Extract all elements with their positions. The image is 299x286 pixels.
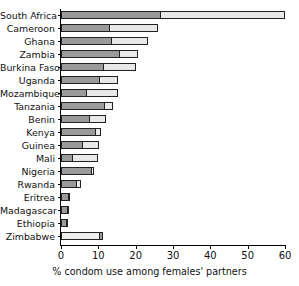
bar-row — [61, 204, 285, 217]
y-axis-label: Kenya — [0, 126, 57, 139]
x-tick-mark — [136, 245, 137, 249]
bar — [61, 11, 285, 19]
bar-segment-light — [89, 116, 105, 122]
bar-row — [61, 191, 285, 204]
x-tick-mark — [98, 245, 99, 249]
bar-row — [61, 126, 285, 139]
bar — [61, 50, 138, 58]
y-axis-label: Nigeria — [0, 165, 57, 178]
bar-row — [61, 113, 285, 126]
bar — [61, 37, 148, 45]
bar-segment-dark — [62, 116, 89, 122]
bar-segment-dark — [62, 77, 99, 83]
bar-segment-dark — [62, 168, 91, 174]
bar — [61, 206, 69, 214]
bar — [61, 141, 99, 149]
bar-segment-light — [76, 181, 80, 187]
bar-segment-light — [86, 90, 117, 96]
bar-segment-light — [66, 220, 67, 226]
bar-segment-dark — [62, 155, 72, 161]
bar — [61, 154, 98, 162]
bar-rows — [61, 9, 285, 243]
bar — [61, 76, 118, 84]
x-tick-label: 10 — [92, 250, 105, 261]
y-axis-label: Guinea — [0, 139, 57, 152]
bar-row — [61, 100, 285, 113]
bar-row — [61, 48, 285, 61]
bar-row — [61, 139, 285, 152]
bar-segment-light — [103, 64, 135, 70]
y-axis-label: Burkina Faso — [0, 61, 57, 74]
plot-area — [61, 9, 285, 243]
bar-segment-light — [68, 194, 69, 200]
y-axis-label: Madagascar — [0, 204, 57, 217]
bar-segment-light — [104, 103, 112, 109]
x-tick-label: 30 — [167, 250, 180, 261]
y-axis-label: South Africa — [0, 9, 57, 22]
x-tick-label: 0 — [58, 250, 64, 261]
y-axis-label: Mozambique — [0, 87, 57, 100]
y-axis-label: Mali — [0, 152, 57, 165]
bar-segment-dark — [62, 181, 76, 187]
bar — [61, 180, 81, 188]
bar-segment-dark — [99, 233, 102, 239]
bar-segment-light — [99, 77, 117, 83]
bar-segment-light — [160, 12, 284, 18]
x-tick-mark — [285, 245, 286, 249]
bar-segment-light — [95, 129, 99, 135]
bar — [61, 102, 113, 110]
y-axis-label: Tanzania — [0, 100, 57, 113]
bar-row — [61, 61, 285, 74]
bar-row — [61, 74, 285, 87]
y-axis-category-labels: South AfricaCameroonGhanaZambiaBurkina F… — [0, 9, 57, 243]
bar-segment-dark — [62, 103, 104, 109]
bar — [61, 167, 94, 175]
bar-row — [61, 35, 285, 48]
bar-segment-dark — [62, 25, 109, 31]
bar-segment-light — [119, 51, 137, 57]
bar — [61, 219, 68, 227]
bar-segment-light — [109, 25, 157, 31]
x-tick-mark — [173, 245, 174, 249]
bar-segment-light — [91, 168, 93, 174]
y-axis-label: Rwanda — [0, 178, 57, 191]
x-tick-label: 50 — [241, 250, 254, 261]
bar-segment-dark — [62, 129, 95, 135]
bar-row — [61, 9, 285, 22]
chart-title-clipped: condom use — [0, 0, 299, 2]
y-axis-label: Ethiopia — [0, 217, 57, 230]
bar — [61, 24, 158, 32]
bar-segment-dark — [62, 51, 119, 57]
x-tick-label: 60 — [279, 250, 292, 261]
bar — [61, 193, 70, 201]
y-axis-label: Eritrea — [0, 191, 57, 204]
bar-segment-light — [111, 38, 147, 44]
bar-row — [61, 217, 285, 230]
bar-segment-light — [72, 155, 97, 161]
x-tick-label: 40 — [204, 250, 217, 261]
bar-segment-dark — [62, 38, 111, 44]
y-axis-label: Ghana — [0, 35, 57, 48]
x-tick-mark — [248, 245, 249, 249]
bar-segment-light — [67, 207, 68, 213]
bar-segment-dark — [62, 64, 103, 70]
bar-row — [61, 22, 285, 35]
bar-row — [61, 87, 285, 100]
x-axis-tick-labels: 0102030405060 — [0, 250, 299, 264]
y-axis-label: Zambia — [0, 48, 57, 61]
bar — [61, 232, 103, 240]
bar-segment-dark — [62, 142, 82, 148]
bar-row — [61, 178, 285, 191]
bar-segment-dark — [62, 12, 160, 18]
y-axis-label: Uganda — [0, 74, 57, 87]
bar — [61, 115, 106, 123]
bar — [61, 128, 101, 136]
bar-row — [61, 230, 285, 243]
x-axis-title: % condom use among females' partners — [0, 266, 299, 277]
bar — [61, 63, 136, 71]
bar — [61, 89, 118, 97]
bar-segment-dark — [62, 90, 86, 96]
y-axis-label: Zimbabwe — [0, 230, 57, 243]
bar-segment-light — [62, 233, 99, 239]
x-tick-mark — [210, 245, 211, 249]
